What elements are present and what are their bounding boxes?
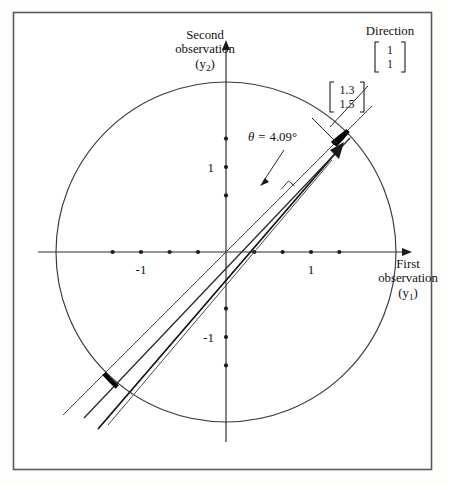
x-tick-dot xyxy=(309,250,313,254)
x-axis-variable: (y1) xyxy=(398,286,418,302)
x-axis-variable-close: ) xyxy=(414,286,418,300)
figure-canvas: Second observation (y2) First observatio… xyxy=(0,0,449,485)
direction-vector-row2: 1 xyxy=(387,57,393,71)
y-tick-dot xyxy=(224,307,228,311)
y-tick-label-neg1: -1 xyxy=(203,330,214,345)
y-axis-title-line2: observation xyxy=(175,42,235,56)
y-axis-title-line1: Second xyxy=(186,28,224,42)
y-tick-dot xyxy=(224,193,228,197)
point-vector-row1: 1.3 xyxy=(340,83,355,97)
x-axis-variable-open: (y xyxy=(398,286,409,300)
x-tick-dot xyxy=(139,250,143,254)
theta-value: 4.09° xyxy=(270,130,298,144)
x-tick-label-pos1: 1 xyxy=(308,262,315,277)
x-axis-title-line2: observation xyxy=(378,271,438,285)
y-axis-variable-open: (y xyxy=(195,57,206,71)
figure-root: Second observation (y2) First observatio… xyxy=(0,0,449,485)
point-vector-row2: 1.5 xyxy=(340,97,355,111)
y-tick-dot xyxy=(224,335,228,339)
direction-vector-row1: 1 xyxy=(387,43,393,57)
x-tick-dot xyxy=(111,250,115,254)
figure-frame xyxy=(14,13,432,470)
y-tick-label-pos1: 1 xyxy=(208,160,215,175)
x-tick-dot xyxy=(281,250,285,254)
direction-title: Direction xyxy=(366,24,415,38)
y-axis-variable-close: ) xyxy=(211,57,215,71)
x-tick-dot xyxy=(168,250,172,254)
y-tick-dot xyxy=(224,165,228,169)
theta-symbol: θ xyxy=(248,130,254,144)
y-tick-dot xyxy=(224,137,228,141)
theta-equals: = xyxy=(258,130,265,144)
x-tick-dot xyxy=(337,250,341,254)
y-axis-variable: (y2) xyxy=(195,57,215,73)
x-tick-dot xyxy=(196,250,200,254)
x-axis-title-line1: First xyxy=(396,257,420,271)
x-tick-label-neg1: -1 xyxy=(136,262,147,277)
y-tick-dot xyxy=(224,363,228,367)
